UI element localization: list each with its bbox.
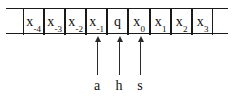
tape-cell-label: x0 bbox=[133, 15, 145, 29]
tape-cell-subscript: 3 bbox=[204, 24, 209, 34]
tape-cell-subscript: -1 bbox=[97, 24, 105, 34]
tape-diagram-figure: x-4 x-3 x-2 x-1 q x0 x1 x2 x3 bbox=[0, 0, 234, 100]
tape-cell-subscript: -3 bbox=[55, 24, 63, 34]
tape-cell-x-minus-2: x-2 bbox=[65, 9, 86, 35]
tape-cell-subscript: 0 bbox=[141, 24, 146, 34]
pointer-arrow-a bbox=[93, 36, 102, 75]
tape-cell-x-0: x0 bbox=[128, 9, 150, 35]
tape-cell-label: q bbox=[114, 15, 121, 29]
arrow-shaft bbox=[119, 41, 120, 75]
tape-cell-label: x-1 bbox=[89, 15, 104, 29]
tape-cell-label: x-3 bbox=[47, 15, 62, 29]
tape-cell-subscript: -4 bbox=[34, 24, 42, 34]
tape-cell-x-3: x3 bbox=[192, 9, 213, 35]
pointer-label-h: h bbox=[111, 79, 127, 93]
pointer-label-s: s bbox=[132, 79, 148, 93]
pointer-arrow-s bbox=[136, 36, 145, 75]
tape-cell-x-1: x1 bbox=[150, 9, 171, 35]
tape-cell-label: x3 bbox=[197, 15, 209, 29]
pointer-label-a: a bbox=[89, 79, 105, 93]
tape-cell-blank-right bbox=[213, 9, 228, 35]
tape-cell-label: x-4 bbox=[26, 15, 41, 29]
tape-strip: x-4 x-3 x-2 x-1 q x0 x1 x2 x3 bbox=[6, 8, 228, 34]
tape-cell-x-minus-1: x-1 bbox=[86, 9, 107, 35]
tape-cell-label: x2 bbox=[176, 15, 188, 29]
tape-cell-subscript: -2 bbox=[76, 24, 84, 34]
tape-cell-blank-left bbox=[6, 9, 23, 35]
tape-cell-label: x1 bbox=[155, 15, 167, 29]
arrow-shaft bbox=[140, 41, 141, 75]
tape-cell-q: q bbox=[107, 9, 128, 35]
tape-cell-x-2: x2 bbox=[171, 9, 192, 35]
pointer-arrow-h bbox=[115, 36, 124, 75]
tape-cell-x-minus-4: x-4 bbox=[23, 9, 44, 35]
arrow-shaft bbox=[97, 41, 98, 75]
tape-cell-subscript: 1 bbox=[162, 24, 167, 34]
tape-cell-subscript: 2 bbox=[183, 24, 188, 34]
tape-cell-x-minus-3: x-3 bbox=[44, 9, 65, 35]
tape-cell-label: x-2 bbox=[68, 15, 83, 29]
